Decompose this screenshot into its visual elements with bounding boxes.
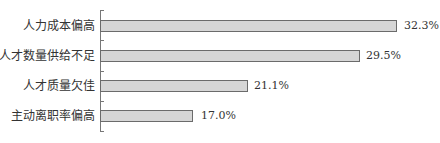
bar bbox=[100, 20, 397, 32]
category-label: 人力成本偏高 bbox=[23, 18, 95, 34]
axis-tick bbox=[100, 40, 104, 41]
value-label: 32.3% bbox=[404, 18, 439, 34]
axis-tick bbox=[100, 10, 104, 11]
bar-row: 主动离职率偏高 17.0% bbox=[0, 110, 440, 123]
bar-row: 人才数量供给不足 29.5% bbox=[0, 50, 440, 63]
category-label: 主动离职率偏高 bbox=[11, 108, 95, 124]
value-label: 29.5% bbox=[366, 48, 401, 64]
value-label: 21.1% bbox=[254, 78, 289, 94]
bar bbox=[100, 50, 360, 62]
category-label: 人才质量欠佳 bbox=[23, 78, 95, 94]
bar bbox=[100, 80, 248, 92]
bar bbox=[100, 110, 193, 122]
bar-row: 人力成本偏高 32.3% bbox=[0, 20, 440, 33]
bar-row: 人才质量欠佳 21.1% bbox=[0, 80, 440, 93]
axis-tick bbox=[100, 71, 104, 72]
axis-tick bbox=[100, 101, 104, 102]
category-label: 人才数量供给不足 bbox=[0, 48, 95, 64]
value-label: 17.0% bbox=[201, 108, 236, 124]
axis-tick bbox=[100, 131, 104, 132]
